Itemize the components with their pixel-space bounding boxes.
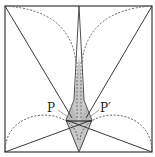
shaded-region-upper [66, 55, 92, 152]
dashed-arc-upper-right [82, 6, 152, 62]
label-P: P [47, 101, 55, 115]
diagonal-top-left [5, 6, 72, 118]
leader-P-prime [90, 110, 99, 117]
label-P-prime: P′ [100, 101, 111, 115]
geometric-diagram: P P′ [0, 0, 155, 157]
diagonal-top-right [86, 6, 152, 118]
dashed-arc-upper-left [5, 6, 76, 62]
leader-P [58, 110, 68, 117]
